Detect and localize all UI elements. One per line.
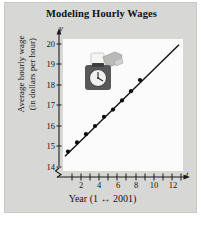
data-point (93, 124, 97, 128)
data-point (111, 108, 115, 112)
time-clock-icon (81, 51, 127, 93)
data-point (129, 89, 133, 93)
data-point (120, 98, 124, 102)
clock-center-pin (97, 77, 99, 79)
data-point (75, 140, 79, 144)
figure-panel: Modeling Hourly Wages Average hourly wag… (4, 2, 197, 213)
data-point (84, 132, 88, 136)
x-axis (57, 174, 190, 181)
data-point (138, 78, 142, 82)
y-axis (57, 28, 62, 167)
figure-container: Modeling Hourly Wages Average hourly wag… (0, 0, 201, 230)
data-point (66, 150, 70, 154)
y-axis-break-symbol (56, 168, 62, 178)
data-point (102, 115, 106, 119)
clock-slot (92, 63, 104, 67)
chart-graphics (5, 3, 201, 230)
